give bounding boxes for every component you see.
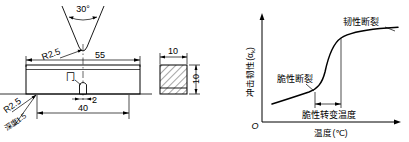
dim-40-arrow-left [37, 111, 43, 114]
dim-55-arrow-left [26, 58, 32, 61]
notch-radius-arrow [78, 50, 82, 53]
dim-w10-arrow-right [182, 56, 187, 59]
x-axis-title: 温度(℃) [314, 128, 347, 138]
specimen-drawing-svg: 30° R2.5 冂 [0, 0, 205, 142]
transition-arrow-right [335, 102, 341, 105]
notch-finish-symbol: 冂 [66, 72, 75, 82]
dim-40-arrow-right [123, 111, 129, 114]
transition-temperature-label: 脆性转变温度 [302, 109, 356, 120]
y-axis-group [260, 13, 265, 122]
notch-width-label: 2 [92, 95, 97, 105]
transition-arrow-left [315, 102, 321, 105]
span-40-label: 40 [78, 103, 88, 113]
transition-curve-svg: O 冲击韧性(αk) 温度(℃) 脆性断裂 韧性断裂 [205, 0, 409, 142]
notch-radius-leader-group [60, 50, 82, 58]
transition-band-group [315, 38, 341, 108]
section-width-label: 10 [168, 46, 178, 56]
y-axis-arrowhead [260, 13, 265, 20]
dim-55-arrow-right [134, 58, 140, 61]
dim-2-arrow-left [75, 98, 80, 101]
dim-2-arrow-right [87, 98, 92, 101]
brittle-fracture-label: 脆性断裂 [277, 73, 313, 84]
y-axis-title-main: 冲击韧性(α [245, 53, 255, 97]
x-axis-group [262, 120, 401, 125]
transition-curve-panel: O 冲击韧性(αk) 温度(℃) 脆性断裂 韧性断裂 [205, 0, 409, 142]
y-axis-title-tail: ) [245, 47, 255, 50]
angle-arrow-left [69, 16, 74, 19]
y-axis-title-group: 冲击韧性(αk) [245, 47, 256, 97]
notch-angle-dimension-group [69, 16, 97, 20]
figure-root: 30° R2.5 冂 [0, 0, 409, 142]
x-axis-arrowhead [394, 120, 401, 125]
impact-toughness-curve [272, 27, 398, 104]
dim-h10-arrow-bottom [195, 89, 198, 94]
dim-h10-arrow-top [195, 65, 198, 70]
specimen-drawing-panel: 30° R2.5 冂 [0, 0, 205, 142]
dim-w10-arrow-left [160, 56, 165, 59]
length-55-label: 55 [95, 50, 105, 60]
brittle-fracture-leader [306, 84, 314, 91]
notch-symbol-leader-line [75, 80, 81, 85]
notch-symbol-leader-group [75, 80, 81, 85]
cross-section-square [160, 65, 187, 94]
cross-section-view-group [160, 65, 187, 94]
ductile-fracture-label: 韧性断裂 [343, 16, 379, 27]
section-height-label: 10 [191, 74, 201, 84]
notch-angle-label: 30° [76, 4, 90, 14]
angle-arrow-right [92, 16, 97, 19]
svg-text:冲击韧性(αk): 冲击韧性(αk) [245, 47, 256, 97]
origin-label: O [251, 121, 258, 131]
